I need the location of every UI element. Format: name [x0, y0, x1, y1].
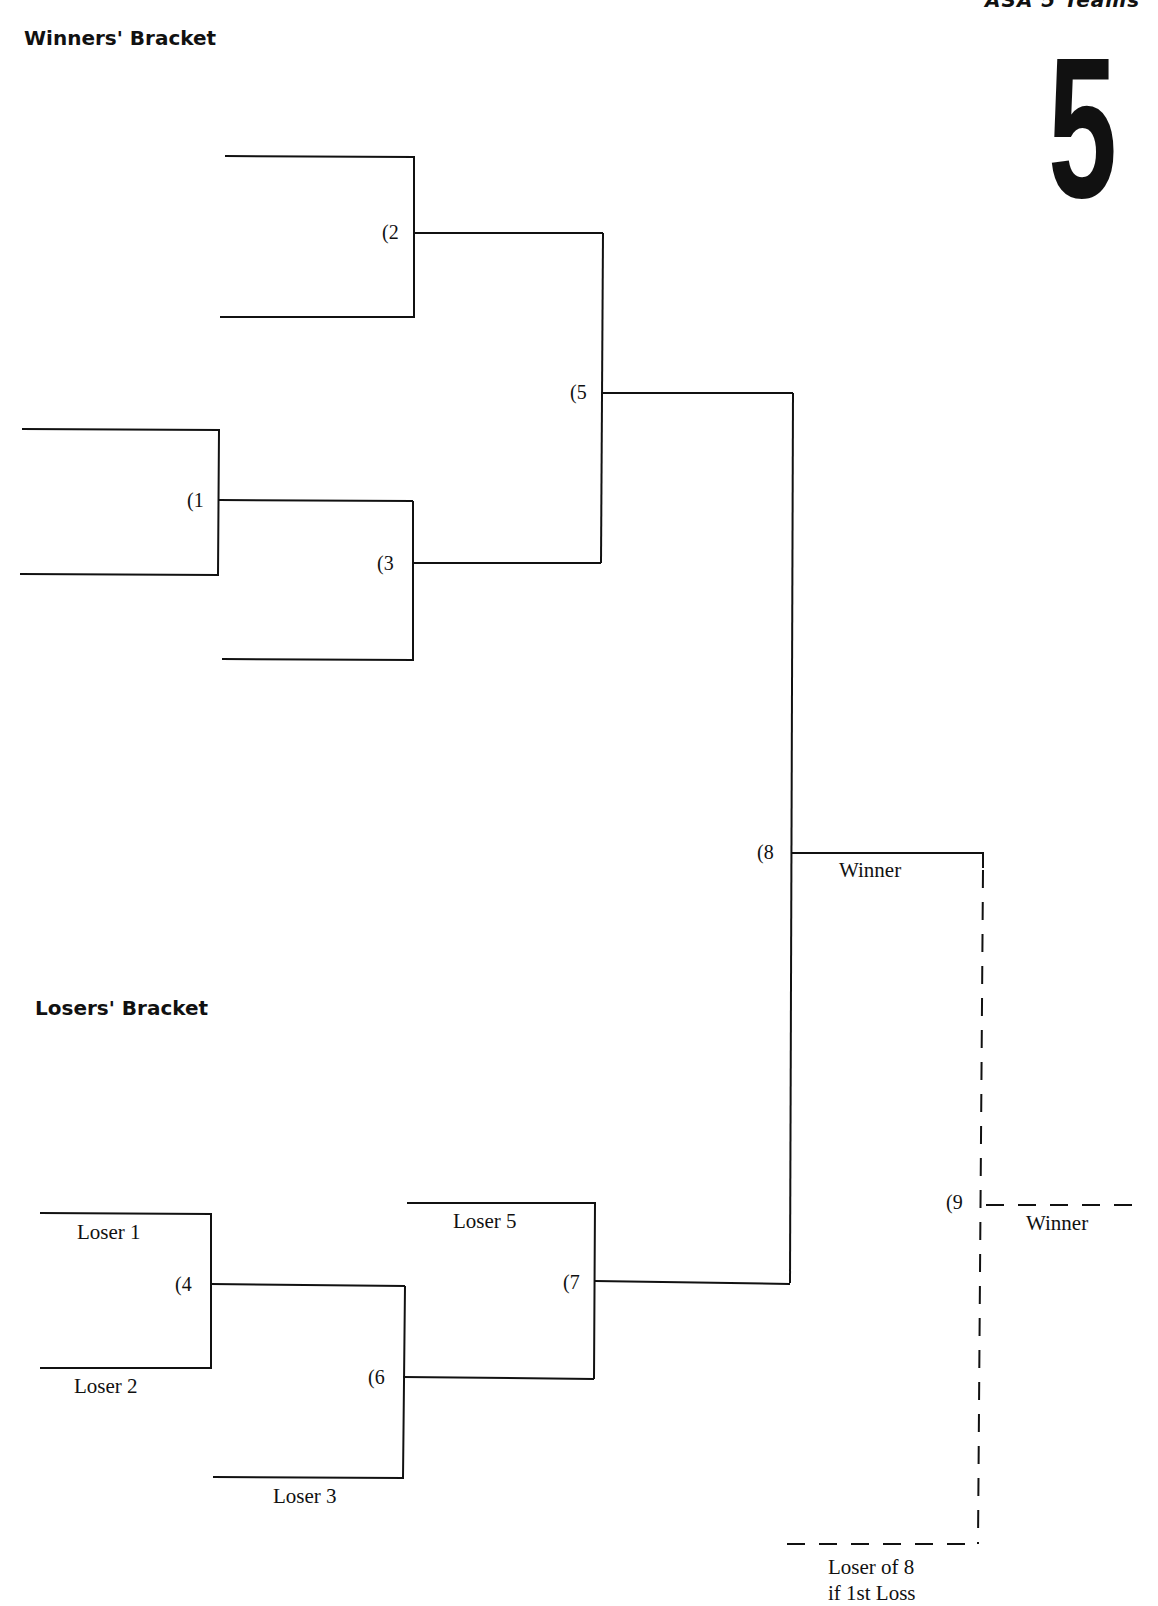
game-9-bracket [787, 870, 1145, 1544]
game-2-label: (2 [382, 221, 399, 244]
loser-of-8-label: Loser of 8 [828, 1555, 914, 1579]
game-5-bracket [601, 233, 793, 563]
final-winner-label: Winner [1026, 1211, 1088, 1235]
game-6-bracket [213, 1286, 594, 1478]
bracket-diagram: (1 (2 (3 (5 (8 (4 (6 (7 (9 Winner Loser … [0, 0, 1158, 1606]
game-5-label: (5 [570, 381, 587, 404]
game-9-label: (9 [946, 1191, 963, 1214]
game-8-winner-label: Winner [839, 858, 901, 882]
game-1-bracket [20, 429, 413, 575]
loser-3-slot: Loser 3 [273, 1484, 337, 1508]
game-8-bracket [790, 393, 983, 1283]
loser-2-slot: Loser 2 [74, 1374, 138, 1398]
game-1-label: (1 [187, 489, 204, 512]
loser-5-slot: Loser 5 [453, 1209, 517, 1233]
if-first-loss-label: if 1st Loss [828, 1581, 916, 1605]
game-2-bracket [220, 156, 603, 317]
game-6-label: (6 [368, 1366, 385, 1389]
game-7-label: (7 [563, 1271, 580, 1294]
game-4-label: (4 [175, 1273, 192, 1296]
game-3-bracket [222, 501, 601, 660]
game-3-label: (3 [377, 552, 394, 575]
game-8-label: (8 [757, 841, 774, 864]
loser-1-slot: Loser 1 [77, 1220, 141, 1244]
